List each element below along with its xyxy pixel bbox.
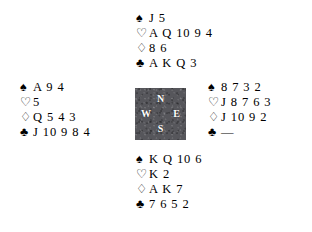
heart-icon: ♡ <box>208 95 221 110</box>
hand-west-hearts-cards: 5 <box>33 95 40 110</box>
club-icon: ♣ <box>208 125 221 140</box>
spade-icon: ♠ <box>208 80 221 95</box>
hand-west-diamonds-row: ♢ Q 5 4 3 <box>20 110 91 125</box>
hand-west-diamonds-cards: Q 5 4 3 <box>33 110 76 125</box>
compass-label-south: S <box>135 124 186 134</box>
hand-north-hearts-row: ♡ A Q 10 9 4 <box>136 26 213 41</box>
hand-west-clubs-row: ♣ J 10 9 8 4 <box>20 125 91 140</box>
hand-north-clubs-row: ♣ A K Q 3 <box>136 56 213 71</box>
hand-west: ♠ A 9 4 ♡ 5 ♢ Q 5 4 3 ♣ J 10 9 8 4 <box>20 80 91 140</box>
compass-box: N W E S <box>135 88 186 140</box>
hand-north-spades-row: ♠ J 5 <box>136 11 213 26</box>
spade-icon: ♠ <box>136 152 149 167</box>
hand-north-hearts-cards: A Q 10 9 4 <box>149 26 213 41</box>
hand-east-hearts-row: ♡ J 8 7 6 3 <box>208 95 271 110</box>
diamond-icon: ♢ <box>136 41 149 56</box>
diamond-icon: ♢ <box>20 110 33 125</box>
hand-west-spades-cards: A 9 4 <box>33 80 65 95</box>
hand-east-clubs-row: ♣ — <box>208 125 271 140</box>
hand-south-spades-cards: K Q 10 6 <box>149 152 202 167</box>
spade-icon: ♠ <box>20 80 33 95</box>
hand-south-clubs-cards: 7 6 5 2 <box>149 197 190 212</box>
hand-south-spades-row: ♠ K Q 10 6 <box>136 152 202 167</box>
hand-south-clubs-row: ♣ 7 6 5 2 <box>136 197 202 212</box>
hand-south: ♠ K Q 10 6 ♡ K 2 ♢ A K 7 ♣ 7 6 5 2 <box>136 152 202 212</box>
hand-north-clubs-cards: A K Q 3 <box>149 56 197 71</box>
heart-icon: ♡ <box>136 26 149 41</box>
diamond-icon: ♢ <box>208 110 221 125</box>
hand-south-hearts-cards: K 2 <box>149 167 170 182</box>
hand-west-clubs-cards: J 10 9 8 4 <box>33 125 91 140</box>
hand-east-spades-row: ♠ 8 7 3 2 <box>208 80 271 95</box>
spade-icon: ♠ <box>136 11 149 26</box>
diamond-icon: ♢ <box>136 182 149 197</box>
hand-south-hearts-row: ♡ K 2 <box>136 167 202 182</box>
hand-east-spades-cards: 8 7 3 2 <box>221 80 262 95</box>
club-icon: ♣ <box>20 125 33 140</box>
hand-east-diamonds-cards: J 10 9 2 <box>221 110 267 125</box>
hand-east-diamonds-row: ♢ J 10 9 2 <box>208 110 271 125</box>
hand-east-hearts-cards: J 8 7 6 3 <box>221 95 271 110</box>
hand-south-diamonds-cards: A K 7 <box>149 182 183 197</box>
hand-east: ♠ 8 7 3 2 ♡ J 8 7 6 3 ♢ J 10 9 2 ♣ — <box>208 80 271 140</box>
heart-icon: ♡ <box>20 95 33 110</box>
hand-east-clubs-cards: — <box>221 125 234 140</box>
club-icon: ♣ <box>136 197 149 212</box>
hand-north-diamonds-row: ♢ 8 6 <box>136 41 213 56</box>
club-icon: ♣ <box>136 56 149 71</box>
hand-west-spades-row: ♠ A 9 4 <box>20 80 91 95</box>
hand-south-diamonds-row: ♢ A K 7 <box>136 182 202 197</box>
hand-north: ♠ J 5 ♡ A Q 10 9 4 ♢ 8 6 ♣ A K Q 3 <box>136 11 213 71</box>
hand-west-hearts-row: ♡ 5 <box>20 95 91 110</box>
heart-icon: ♡ <box>136 167 149 182</box>
hand-north-spades-cards: J 5 <box>149 11 166 26</box>
hand-north-diamonds-cards: 8 6 <box>149 41 167 56</box>
